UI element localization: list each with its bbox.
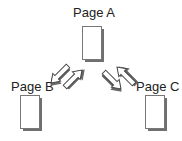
arrows-layer [0, 0, 182, 141]
